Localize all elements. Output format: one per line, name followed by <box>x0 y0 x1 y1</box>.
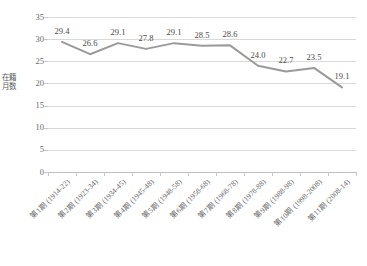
x-axis-tick-mark <box>356 172 357 176</box>
x-axis-tick-mark <box>300 172 301 176</box>
x-axis-tick-mark <box>104 172 105 176</box>
x-axis-tick-mark <box>188 172 189 176</box>
data-point-label: 22.7 <box>279 56 294 65</box>
y-axis-tick-label: 30 <box>18 35 44 44</box>
x-axis-tick-mark <box>272 172 273 176</box>
data-point-label: 24.0 <box>251 51 266 60</box>
data-point-label: 29.1 <box>111 28 126 37</box>
y-axis-tick-label: 5 <box>18 145 44 154</box>
y-axis-tick-label: 0 <box>18 168 44 177</box>
x-axis-tick-mark <box>160 172 161 176</box>
y-axis-tick-label: 35 <box>18 13 44 22</box>
data-point-label: 29.4 <box>55 27 70 36</box>
y-axis-tick-mark <box>44 150 48 151</box>
x-axis-tick-mark <box>328 172 329 176</box>
y-axis-tick-label: 10 <box>18 123 44 132</box>
series-polyline <box>62 42 342 88</box>
x-axis-tick-mark <box>216 172 217 176</box>
x-axis-category-labels: 第1期 (1914-22)第2期 (1923-34)第3期 (1934-45)第… <box>0 178 367 266</box>
x-axis-tick-mark <box>244 172 245 176</box>
y-axis-tick-label: 15 <box>18 101 44 110</box>
data-point-label: 27.8 <box>139 34 154 43</box>
y-axis-tick-mark <box>44 83 48 84</box>
line-chart: 在籍月数 05101520253035 29.426.629.127.829.1… <box>0 0 367 266</box>
data-point-label: 19.1 <box>335 72 350 81</box>
data-point-label: 26.6 <box>83 39 98 48</box>
y-axis-tick-mark <box>44 106 48 107</box>
x-axis-tick-mark <box>76 172 77 176</box>
x-axis-tick-mark <box>132 172 133 176</box>
x-axis-tick-mark <box>48 172 49 176</box>
y-axis-tick-label: 20 <box>18 79 44 88</box>
data-point-label: 29.1 <box>167 28 182 37</box>
y-axis-tick-mark <box>44 61 48 62</box>
y-axis-tick-mark <box>44 17 48 18</box>
data-point-label: 28.6 <box>223 30 238 39</box>
data-point-label: 23.5 <box>307 53 322 62</box>
y-axis-tick-mark <box>44 39 48 40</box>
data-point-label: 28.5 <box>195 31 210 40</box>
gridline <box>48 172 356 173</box>
y-axis-tick-mark <box>44 128 48 129</box>
y-axis-tick-label: 25 <box>18 57 44 66</box>
